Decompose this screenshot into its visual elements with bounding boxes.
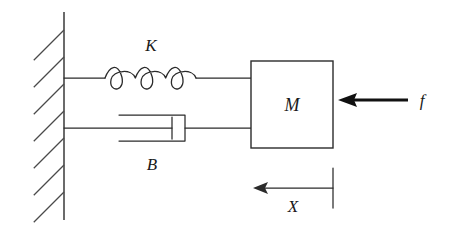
displacement-label-X: X [287, 197, 299, 216]
spring-coil [105, 67, 196, 89]
mass-group: M [251, 61, 333, 148]
damper-group: B [64, 115, 251, 174]
wall-hatch-line [34, 165, 64, 195]
fixed-wall-group [34, 12, 64, 222]
mass-label-M: M [284, 95, 301, 115]
diagram-canvas: K B M f X [0, 0, 453, 227]
spring-label-K: K [144, 36, 158, 55]
wall-hatch-line [34, 84, 64, 114]
wall-hatching [34, 30, 64, 222]
damper-label-B: B [147, 155, 158, 174]
mechanical-system-diagram: K B M f X [0, 0, 453, 227]
wall-hatch-line [34, 30, 64, 60]
displacement-arrow-group: X [253, 168, 333, 216]
spring-group: K [64, 36, 251, 89]
wall-hatch-line [34, 57, 64, 87]
wall-hatch-line [34, 138, 64, 168]
force-label-f: f [420, 91, 427, 110]
wall-hatch-line [34, 111, 64, 141]
force-arrow-group: f [338, 91, 427, 110]
wall-hatch-line [34, 192, 64, 222]
